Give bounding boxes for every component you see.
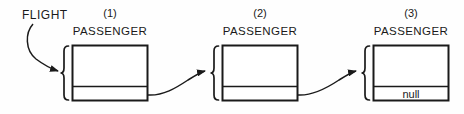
node-2-index-label: (2) (220, 7, 300, 19)
node-1-type-label: PASSENGER (62, 25, 158, 37)
node-2-brace (211, 46, 219, 100)
node2-to-node3-arrow (298, 71, 356, 95)
node-1-brace (61, 46, 69, 100)
linked-list-diagram: FLIGHT (1) PASSENGER (2) PASSENGER (3) P… (0, 0, 464, 114)
node-1-group (61, 46, 148, 101)
node-1-index-label: (1) (70, 7, 150, 19)
node-2-type-label: PASSENGER (212, 25, 308, 37)
flight-pointer-arrow (27, 24, 58, 71)
node-3-index-label: (3) (371, 7, 451, 19)
node-3-type-label: PASSENGER (363, 25, 459, 37)
node1-to-node2-arrow (148, 71, 205, 95)
node-2-group (211, 46, 298, 101)
flight-pointer-label: FLIGHT (22, 8, 68, 22)
node-1-box (73, 46, 148, 101)
node-3-brace (362, 46, 370, 100)
node-3-link-value: null (374, 88, 448, 100)
node-2-box (223, 46, 298, 101)
